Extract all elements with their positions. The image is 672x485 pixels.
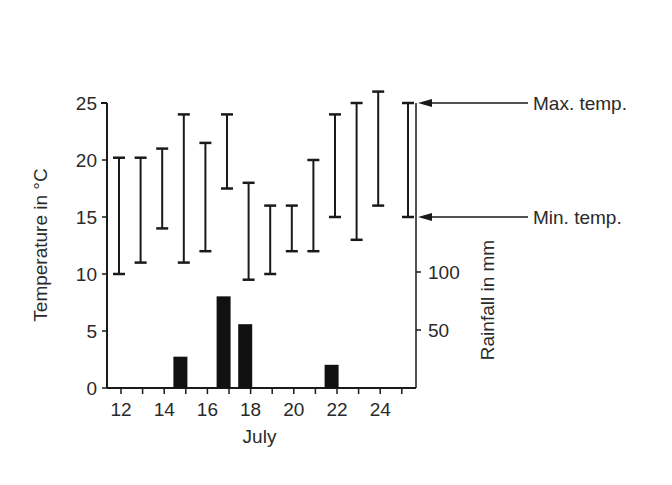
x-tick-label: 16 bbox=[197, 399, 218, 420]
y-tick-label: 25 bbox=[76, 93, 97, 114]
x-axis-title: July bbox=[243, 426, 277, 447]
y-tick-label: 20 bbox=[76, 150, 97, 171]
y2-axis-title: Rainfall in mm bbox=[477, 240, 498, 360]
y2-tick-label: 50 bbox=[428, 320, 449, 341]
x-tick-label: 14 bbox=[154, 399, 176, 420]
max-temp-label: Max. temp. bbox=[533, 93, 627, 114]
x-tick-label: 12 bbox=[110, 399, 131, 420]
x-tick-label: 22 bbox=[326, 399, 347, 420]
y2-tick-label: 100 bbox=[428, 262, 460, 283]
x-tick-label: 24 bbox=[370, 399, 392, 420]
x-tick-label: 18 bbox=[240, 399, 261, 420]
y-tick-label: 15 bbox=[76, 207, 97, 228]
min-temp-label: Min. temp. bbox=[533, 207, 622, 228]
y-tick-label: 10 bbox=[76, 264, 97, 285]
rainfall-bar bbox=[238, 324, 252, 388]
rainfall-bar bbox=[173, 357, 187, 388]
y-tick-label: 0 bbox=[86, 378, 97, 399]
temperature-rainfall-chart: 05101520255010012141618202224JulyTempera… bbox=[0, 0, 672, 485]
x-tick-label: 20 bbox=[283, 399, 304, 420]
rainfall-bar bbox=[325, 365, 339, 388]
rainfall-bar bbox=[217, 296, 231, 388]
y-axis-title: Temperature in °C bbox=[30, 168, 51, 321]
y-tick-label: 5 bbox=[86, 321, 97, 342]
